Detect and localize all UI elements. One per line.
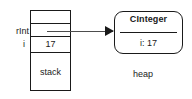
pointer-line (47, 31, 113, 32)
heap-region-label: heap (133, 70, 153, 79)
heap-object-class-name: CInteger (115, 15, 182, 24)
stack-region-label: stack (31, 53, 70, 91)
heap-object-field-i: i: 17 (115, 39, 182, 48)
diagram-canvas: rInt i 17 stack CInteger i: 17 heap (0, 0, 192, 99)
arrow-right-icon (105, 26, 114, 36)
variable-label-rint: rInt (16, 27, 29, 36)
heap-object-box: CInteger i: 17 (114, 11, 183, 54)
stack-cell-empty (31, 11, 70, 24)
stack-cell-value: 17 (31, 37, 70, 53)
variable-label-i: i (23, 40, 25, 49)
heap-object-divider (120, 32, 177, 33)
stack-box: 17 stack (30, 10, 71, 91)
